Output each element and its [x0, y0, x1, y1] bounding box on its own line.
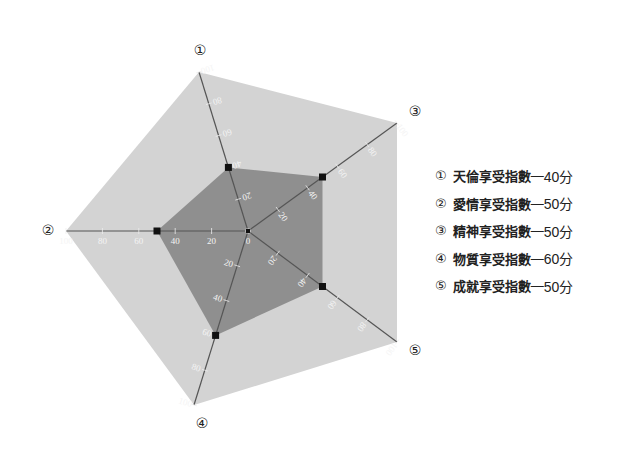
legend-item: ④ 物質享受指數 — 60分: [435, 245, 573, 273]
axis-label-4: ④: [196, 415, 209, 431]
legend-separator: —: [531, 223, 544, 238]
data-point-4: [212, 332, 219, 339]
legend-marker: ③: [435, 223, 447, 238]
legend-label: 天倫享受指數: [453, 166, 531, 185]
tick-label: 60: [134, 236, 144, 246]
legend: ① 天倫享受指數 — 40分 ② 愛情享受指數 — 50分 ③ 精神享受指數 —…: [435, 162, 573, 300]
tick-label: 80: [98, 236, 108, 246]
legend-marker: ①: [435, 168, 447, 183]
legend-marker: ⑤: [435, 278, 447, 293]
data-point-3: [319, 174, 326, 181]
axis-label-1: ①: [194, 42, 207, 58]
axis-label-5: ⑤: [409, 342, 422, 358]
tick-label: 100: [59, 236, 73, 246]
legend-separator: —: [531, 278, 544, 293]
tick-label: 40: [171, 236, 181, 246]
legend-item: ⑤ 成就享受指數 — 50分: [435, 272, 573, 300]
legend-label: 成就享受指數: [453, 276, 531, 295]
legend-item: ① 天倫享受指數 — 40分: [435, 162, 573, 190]
data-point-1: [225, 164, 232, 171]
legend-item: ③ 精神享受指數 — 50分: [435, 217, 573, 245]
legend-label: 精神享受指數: [453, 221, 531, 240]
legend-value: 50分: [544, 193, 574, 213]
legend-marker: ②: [435, 196, 447, 211]
legend-marker: ④: [435, 251, 447, 266]
legend-value: 50分: [544, 221, 574, 241]
legend-separator: —: [531, 196, 544, 211]
legend-separator: —: [531, 168, 544, 183]
tick-label: 0: [246, 236, 251, 246]
center-dot: [246, 229, 250, 233]
legend-label: 物質享受指數: [453, 249, 531, 268]
axis-label-2: ②: [42, 222, 55, 238]
legend-value: 50分: [544, 276, 574, 296]
legend-label: 愛情享受指數: [453, 194, 531, 213]
legend-value: 60分: [544, 248, 574, 268]
tick-label: 20: [207, 236, 217, 246]
axis-label-3: ③: [409, 103, 422, 119]
data-point-5: [319, 283, 326, 290]
legend-separator: —: [531, 251, 544, 266]
legend-item: ② 愛情享受指數 — 50分: [435, 190, 573, 218]
legend-value: 40分: [544, 166, 574, 186]
data-point-2: [154, 228, 161, 235]
